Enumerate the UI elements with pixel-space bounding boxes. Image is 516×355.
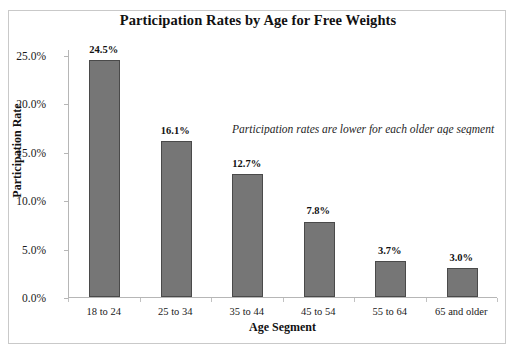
bar-value-label: 16.1%	[135, 125, 215, 136]
bar-value-label: 7.8%	[278, 205, 358, 216]
chart-annotation: Participation rates are lower for each o…	[232, 123, 500, 135]
bar-value-label: 24.5%	[64, 44, 144, 55]
x-axis-tick-mark	[140, 298, 141, 302]
x-axis-tick-mark	[68, 298, 69, 302]
bar-value-label: 12.7%	[207, 158, 287, 169]
x-axis-tick-mark	[426, 298, 427, 302]
x-axis-tick-label: 65 and older	[416, 306, 506, 317]
y-axis-title: Participation Rate	[10, 76, 25, 226]
bar	[232, 174, 263, 297]
x-axis-tick-mark	[497, 298, 498, 302]
bar-value-label: 3.0%	[421, 252, 501, 263]
x-axis-tick-mark	[354, 298, 355, 302]
bar	[375, 261, 406, 297]
x-axis-title: Age Segment	[68, 320, 497, 335]
bar-value-label: 3.7%	[350, 245, 430, 256]
chart-title: Participation Rates by Age for Free Weig…	[0, 12, 516, 29]
bar	[161, 141, 192, 297]
bar	[447, 268, 478, 297]
x-axis-tick-mark	[283, 298, 284, 302]
bar	[304, 222, 335, 298]
x-axis-tick-mark	[211, 298, 212, 302]
chart-screenshot: Participation Rates by Age for Free Weig…	[0, 0, 516, 355]
bar	[89, 60, 120, 297]
